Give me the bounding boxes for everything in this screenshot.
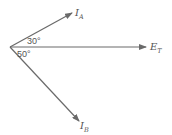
angle-label-30: 30° [27, 36, 41, 46]
label-et: ET [149, 41, 162, 55]
label-ia: IA [74, 7, 84, 21]
arrow-ia [10, 13, 72, 47]
label-ib: IB [79, 120, 89, 134]
vector-ib: IB [10, 47, 89, 134]
vector-ia: IA [10, 7, 84, 47]
phasor-diagram: IA ET IB 30° 50° [0, 0, 172, 135]
angle-label-50: 50° [17, 49, 31, 59]
